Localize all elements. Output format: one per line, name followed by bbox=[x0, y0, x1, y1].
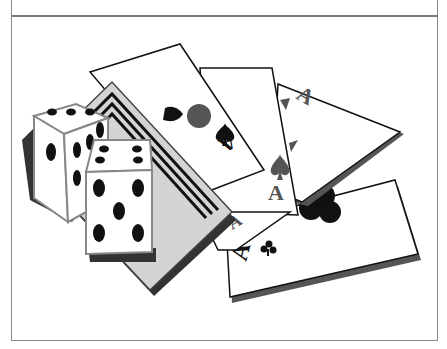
die-front bbox=[86, 140, 156, 262]
cards-and-dice-illustration: A A A A A bbox=[0, 0, 447, 349]
ace-rank-label: A bbox=[268, 180, 284, 205]
